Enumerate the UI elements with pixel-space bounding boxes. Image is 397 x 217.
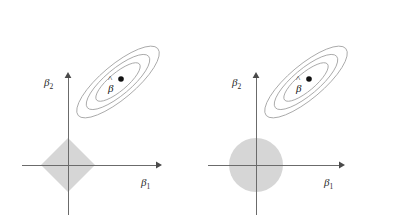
y-axis-arrowhead xyxy=(65,72,72,78)
contour-outer xyxy=(67,36,169,129)
axes-lasso xyxy=(22,72,162,215)
axes-ridge xyxy=(208,72,345,215)
contour-middle xyxy=(267,46,345,117)
beta-hat-label: β xyxy=(107,82,114,94)
x-axis-arrowhead xyxy=(156,162,162,169)
panel-lasso: β2 β1 ^ β xyxy=(0,0,199,217)
ols-estimate-point xyxy=(118,76,124,82)
y-axis-label: β2 xyxy=(231,76,241,91)
x-axis-label: β1 xyxy=(323,176,333,191)
panel-ridge: β2 β1 ^ β xyxy=(198,0,397,217)
rss-contours-lasso xyxy=(67,36,169,129)
contour-outer xyxy=(255,36,357,129)
rss-contours-ridge xyxy=(255,36,357,129)
contour-middle xyxy=(79,46,157,117)
beta-hat-label: β xyxy=(295,82,302,94)
constraint-region-figure: β2 β1 ^ β xyxy=(0,0,397,217)
y-axis-arrowhead xyxy=(253,72,260,78)
ols-estimate-point xyxy=(306,76,312,82)
x-axis-label: β1 xyxy=(140,176,150,191)
y-axis-label: β2 xyxy=(43,76,53,91)
x-axis-arrowhead xyxy=(339,162,345,169)
